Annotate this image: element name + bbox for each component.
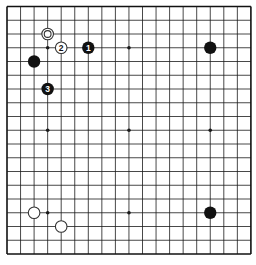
move-number-label: 2	[59, 43, 64, 53]
white-stone-icon	[55, 221, 67, 233]
star-point-icon	[46, 46, 50, 50]
black-stone-1: 1	[82, 42, 94, 54]
white-stone-2: 2	[55, 42, 67, 54]
white-stone-icon	[28, 207, 40, 219]
star-point-icon	[127, 211, 131, 215]
black-stone	[28, 55, 40, 67]
black-stone-3: 3	[41, 83, 53, 95]
star-point-icon	[46, 211, 50, 215]
go-board: 213	[0, 0, 256, 265]
white-stone	[55, 221, 67, 233]
white-stone-marked	[42, 28, 54, 40]
star-point-icon	[208, 128, 212, 132]
star-point-icon	[127, 46, 131, 50]
white-stone-icon	[42, 28, 54, 40]
black-stone	[204, 42, 216, 54]
black-stone-icon	[204, 207, 216, 219]
move-number-label: 3	[45, 84, 50, 94]
star-point-icon	[46, 128, 50, 132]
move-number-label: 1	[86, 43, 91, 53]
star-point-icon	[127, 128, 131, 132]
black-stone-icon	[28, 55, 40, 67]
black-stone-icon	[204, 42, 216, 54]
black-stone	[204, 207, 216, 219]
white-stone	[28, 207, 40, 219]
